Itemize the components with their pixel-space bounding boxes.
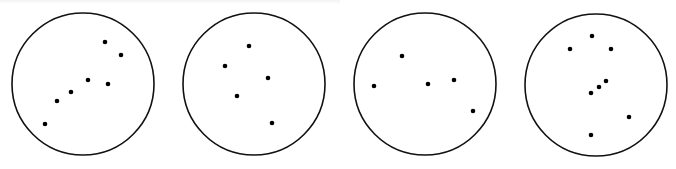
- dot: [590, 34, 595, 39]
- panel-circle: [12, 13, 154, 155]
- dot: [589, 133, 594, 138]
- panel-circle: [183, 13, 325, 155]
- dot: [103, 40, 108, 45]
- dot: [119, 53, 124, 58]
- dot: [471, 109, 476, 114]
- dot: [400, 54, 405, 59]
- panel-4: [525, 14, 667, 156]
- panel-2: [183, 13, 325, 155]
- dot: [452, 78, 457, 83]
- dot: [589, 91, 594, 96]
- dot: [426, 82, 431, 87]
- dot: [568, 47, 573, 52]
- dot: [235, 94, 240, 99]
- panel-circle: [525, 14, 667, 156]
- panel-circle: [354, 13, 496, 155]
- dot: [609, 47, 614, 52]
- dot-panels-diagram: [0, 0, 676, 169]
- dot: [270, 121, 275, 126]
- dot: [247, 44, 252, 49]
- dot: [55, 99, 60, 104]
- dot: [106, 82, 111, 87]
- dot: [266, 76, 271, 81]
- dot: [604, 79, 609, 84]
- dot: [86, 78, 91, 83]
- dot: [223, 64, 228, 69]
- dot: [69, 90, 74, 95]
- dot: [627, 115, 632, 120]
- panel-1: [12, 13, 154, 155]
- dot: [372, 84, 377, 89]
- dot: [597, 85, 602, 90]
- dot: [43, 122, 48, 127]
- panel-3: [354, 13, 496, 155]
